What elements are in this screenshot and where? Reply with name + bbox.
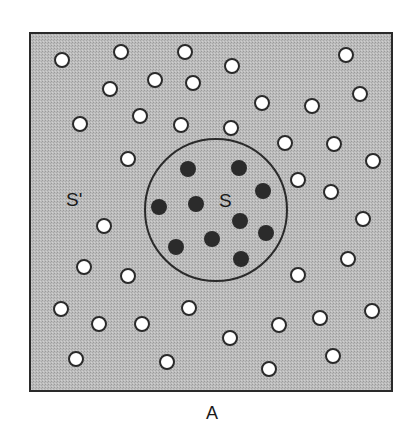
open-circle [114, 45, 128, 59]
open-circle [327, 137, 341, 151]
open-circle [121, 269, 135, 283]
open-circle [54, 302, 68, 316]
open-circle [55, 53, 69, 67]
open-circle [365, 304, 379, 318]
open-circle [186, 76, 200, 90]
open-circle [224, 121, 238, 135]
open-circle [305, 99, 319, 113]
open-circle [133, 109, 147, 123]
filled-circle [188, 196, 204, 212]
figure-label: A [206, 404, 218, 422]
open-circle [291, 268, 305, 282]
open-circle [324, 185, 338, 199]
open-circle [291, 173, 305, 187]
open-circle [121, 152, 135, 166]
open-circle [97, 219, 111, 233]
filled-circle [232, 213, 248, 229]
outer-region-square [30, 33, 392, 391]
filled-circle [258, 225, 274, 241]
open-circle [178, 45, 192, 59]
open-circle [92, 317, 106, 331]
open-circle [73, 117, 87, 131]
inner-region-label: S [219, 191, 232, 210]
open-circle [366, 154, 380, 168]
open-circle [160, 355, 174, 369]
open-circle [339, 48, 353, 62]
open-circle [223, 331, 237, 345]
filled-circle [231, 160, 247, 176]
diagram-canvas [0, 0, 416, 435]
filled-circle [204, 231, 220, 247]
open-circle [313, 311, 327, 325]
filled-circle [255, 183, 271, 199]
open-circle [326, 349, 340, 363]
set-diagram: S' S A [0, 0, 416, 435]
filled-circle [168, 239, 184, 255]
open-circle [135, 317, 149, 331]
open-circle [174, 118, 188, 132]
open-circle [278, 136, 292, 150]
open-circle [225, 59, 239, 73]
filled-circle [151, 199, 167, 215]
open-circle [103, 82, 117, 96]
open-circle [262, 362, 276, 376]
open-circle [148, 73, 162, 87]
open-circle [353, 87, 367, 101]
open-circle [255, 96, 269, 110]
open-circle [272, 318, 286, 332]
filled-circle [180, 161, 196, 177]
open-circle [77, 260, 91, 274]
open-circle [356, 212, 370, 226]
filled-circle [233, 251, 249, 267]
open-circle [341, 252, 355, 266]
open-circle [69, 352, 83, 366]
open-circle [182, 301, 196, 315]
outer-region-label: S' [66, 190, 82, 209]
